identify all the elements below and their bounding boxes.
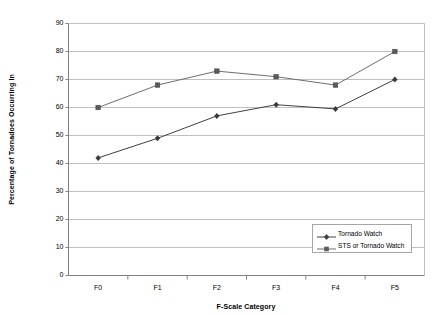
plot-area xyxy=(0,0,440,315)
legend-label-1: STS or Tornado Watch xyxy=(338,242,404,249)
series-1 xyxy=(95,77,397,161)
x-tick-label: F5 xyxy=(365,284,425,291)
x-axis-tick-marks xyxy=(128,276,365,280)
data-point-marker xyxy=(393,49,398,54)
x-tick-label: F1 xyxy=(128,284,188,291)
x-axis-title-container: F-Scale Category xyxy=(68,295,424,313)
data-point-marker xyxy=(333,83,338,88)
x-tick-label: F3 xyxy=(246,284,306,291)
data-point-marker xyxy=(155,83,160,88)
x-tick-label: F4 xyxy=(306,284,366,291)
data-point-marker xyxy=(95,155,100,161)
data-point-marker xyxy=(273,102,278,108)
x-tick-label: F2 xyxy=(187,284,247,291)
series-line xyxy=(98,80,395,158)
legend-marker-square-icon xyxy=(316,240,337,250)
data-point-marker xyxy=(155,135,160,141)
data-series-group xyxy=(95,49,397,161)
data-point-marker xyxy=(274,74,279,79)
legend-marker-diamond-icon xyxy=(316,228,337,238)
legend-item-sts-or-tornado-watch: STS or Tornado Watch xyxy=(316,239,408,251)
data-point-marker xyxy=(333,106,338,112)
data-point-marker xyxy=(392,77,397,83)
data-point-marker xyxy=(215,69,220,74)
chart-legend: Tornado Watch STS or Tornado Watch xyxy=(312,224,412,253)
data-point-marker xyxy=(214,113,219,119)
chart-figure: Percentage of Tornadoes Occurring In 010… xyxy=(0,0,440,315)
x-axis-title: F-Scale Category xyxy=(217,303,276,310)
data-point-marker xyxy=(96,105,101,110)
legend-label-0: Tornado Watch xyxy=(338,230,382,237)
x-tick-label: F0 xyxy=(68,284,128,291)
legend-item-tornado-watch: Tornado Watch xyxy=(316,227,408,239)
